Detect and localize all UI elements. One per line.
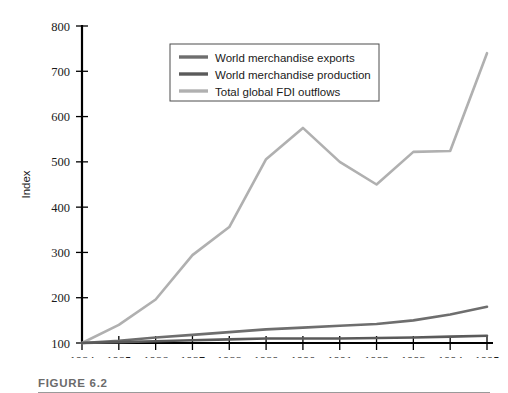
y-axis-tick-label: 300 xyxy=(51,246,70,260)
y-axis-tick-label: 600 xyxy=(51,110,70,124)
chart-legend: World merchandise exportsWorld merchandi… xyxy=(170,44,379,101)
y-axis-title: Index xyxy=(20,170,32,198)
y-axis: 100200300400500600700800 xyxy=(51,20,88,351)
chart-plot-area: 100200300400500600700800 198419851986198… xyxy=(0,0,508,358)
y-axis-tick-label: 200 xyxy=(51,291,70,305)
line-chart: 100200300400500600700800 198419851986198… xyxy=(0,0,508,358)
legend-item-label: World merchandise exports xyxy=(215,52,355,64)
figure-caption-block: FIGURE 6.2 Growth of FDI, World Trade, a… xyxy=(0,358,508,393)
legend-item-label: Total global FDI outflows xyxy=(215,86,341,98)
y-axis-tick-label: 800 xyxy=(51,20,70,34)
y-axis-tick-label: 400 xyxy=(51,201,70,215)
legend-item-label: World merchandise production xyxy=(215,69,371,81)
figure-caption-label: FIGURE 6.2 xyxy=(38,377,108,389)
y-axis-tick-label: 500 xyxy=(51,155,70,169)
figure-container: 100200300400500600700800 198419851986198… xyxy=(0,0,508,393)
y-axis-tick-label: 700 xyxy=(51,65,70,79)
y-axis-tick-label: 100 xyxy=(51,337,70,351)
